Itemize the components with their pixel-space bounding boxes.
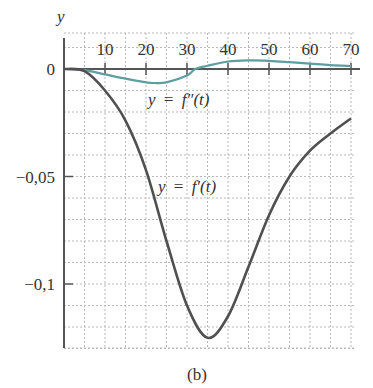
y-tick-label: −0,05	[16, 168, 55, 187]
y-tick-labels: 0−0,05−0,1	[16, 60, 55, 294]
x-tick-label: 60	[302, 40, 319, 59]
x-tick-label: 30	[179, 40, 196, 59]
x-tick-label: 40	[220, 40, 237, 59]
x-tick-label: 20	[138, 40, 155, 59]
x-tick-labels: 10203040506070	[97, 40, 360, 59]
x-tick-label: 10	[97, 40, 114, 59]
x-tick-label: 50	[261, 40, 278, 59]
y-tick-label: 0	[47, 60, 56, 79]
annotation-f-prime: y = f′(t)	[156, 177, 216, 196]
series-f-double-prime	[64, 60, 351, 83]
annotation-f-double-prime: y = f″(t)	[146, 90, 210, 109]
figure-caption: (b)	[187, 365, 207, 384]
x-tick-label: 70	[343, 40, 360, 59]
chart: 10203040506070 0−0,05−0,1 y y = f″(t) y …	[0, 0, 373, 388]
y-axis-label: y	[55, 7, 65, 26]
y-tick-label: −0,1	[24, 275, 55, 294]
